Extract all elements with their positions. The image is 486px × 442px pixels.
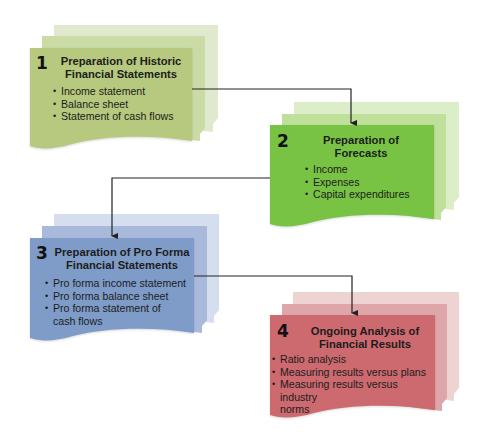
step-4-bullets: Ratio analysis Measuring results versus … [272,353,437,416]
process-diagram: 1 Preparation of Historic Financial Stat… [0,0,486,442]
step-4-bullet-continuation: norms [272,403,437,416]
step-4-title: Ongoing Analysis of Financial Results [300,325,430,351]
step-4-number: 4 [277,323,289,340]
step-4-bullet: Ratio analysis [272,353,437,366]
step-4-bullet: Measuring results versus industry [272,378,437,403]
step-4-bullet: Measuring results versus plans [272,366,437,379]
